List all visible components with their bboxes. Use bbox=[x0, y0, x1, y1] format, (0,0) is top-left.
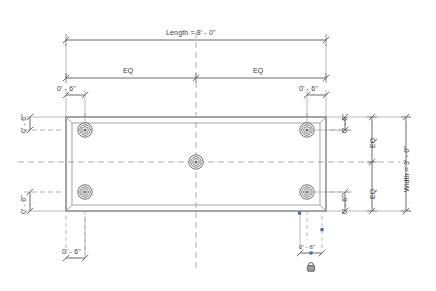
eq-dimension-line-vertical[interactable] bbox=[352, 114, 377, 214]
anchor-bolt-bottom-right[interactable] bbox=[300, 185, 314, 199]
anchor-bolt-top-right[interactable] bbox=[300, 123, 314, 137]
cad-drawing-canvas[interactable]: Length = 8' - 0" EQ EQ 0' - 6" 0' - 6" 0… bbox=[0, 0, 436, 291]
anchor-bolt-bottom-left[interactable] bbox=[78, 185, 92, 199]
offset-label-bottom-right[interactable]: 0' - 6" bbox=[299, 244, 315, 250]
eq-label-right-upper[interactable]: EQ bbox=[369, 138, 376, 148]
drag-grip-square[interactable] bbox=[320, 228, 323, 231]
drag-grip-square[interactable] bbox=[298, 212, 301, 215]
offset-dimension-left-lower[interactable] bbox=[26, 189, 66, 214]
eq-label-top-right[interactable]: EQ bbox=[253, 67, 263, 74]
anchor-bolt-center[interactable] bbox=[189, 155, 203, 169]
width-dimension-label[interactable]: Width = 3' - 0" bbox=[403, 146, 410, 192]
anchor-bolt-top-left[interactable] bbox=[78, 123, 92, 137]
offset-label-right-upper[interactable]: 0' - 6" bbox=[341, 114, 348, 133]
eq-label-top-left[interactable]: EQ bbox=[123, 67, 133, 74]
drag-grip-square[interactable] bbox=[309, 251, 312, 254]
offset-label-bottom-left[interactable]: 0' - 6" bbox=[62, 248, 81, 255]
offset-label-top-right[interactable]: 0' - 6" bbox=[299, 85, 318, 92]
offset-label-left-upper[interactable]: 0' - 6" bbox=[20, 114, 27, 133]
offset-label-right-lower[interactable]: 0' - 6" bbox=[341, 195, 348, 214]
length-dimension-label[interactable]: Length = 8' - 0" bbox=[166, 29, 216, 36]
offset-label-top-left[interactable]: 0' - 6" bbox=[57, 85, 76, 92]
offset-label-left-lower[interactable]: 0' - 6" bbox=[20, 195, 27, 214]
padlock-locked-icon[interactable] bbox=[307, 263, 314, 272]
eq-dimension-line-horizontal[interactable] bbox=[63, 73, 329, 83]
eq-label-right-lower[interactable]: EQ bbox=[369, 189, 376, 199]
